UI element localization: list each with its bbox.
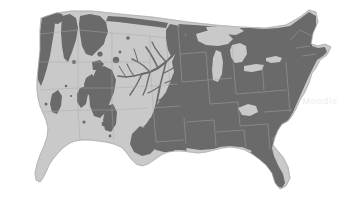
patch-coast-range <box>45 103 48 106</box>
map-figure: Moodle <box>0 0 344 219</box>
patch-mogollon <box>82 120 85 123</box>
patch-nebraska <box>119 51 122 54</box>
patch-great-basin-1 <box>65 85 68 88</box>
patch-north-dakota <box>126 36 130 40</box>
patch-absaroka <box>93 62 97 66</box>
us-choropleth-map <box>0 0 344 219</box>
patch-great-basin-2 <box>70 95 72 97</box>
patch-bighorn <box>97 51 102 56</box>
watermark-text: Moodle <box>302 96 338 106</box>
patch-sacramento-mtns <box>109 135 112 138</box>
patch-san-juan <box>102 122 107 127</box>
